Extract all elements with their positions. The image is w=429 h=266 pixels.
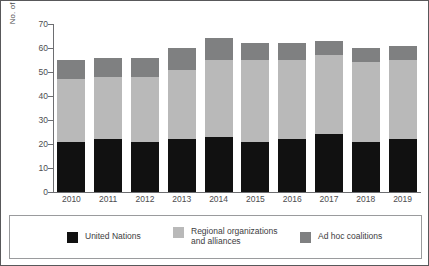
legend-item-label: Ad hoc coalitions bbox=[318, 231, 382, 241]
legend-item[interactable]: United Nations bbox=[67, 231, 141, 243]
bar-segment[interactable] bbox=[352, 142, 380, 192]
bar-segment[interactable] bbox=[315, 134, 343, 192]
bar-segment[interactable] bbox=[131, 142, 159, 192]
bar-segment[interactable] bbox=[57, 79, 85, 141]
bar-segment[interactable] bbox=[205, 38, 233, 60]
bar-segment[interactable] bbox=[94, 139, 122, 192]
chart-legend: United NationsRegional organizations and… bbox=[9, 216, 422, 259]
bar-segment[interactable] bbox=[131, 77, 159, 142]
bar-segment[interactable] bbox=[241, 60, 269, 142]
bar-segment[interactable] bbox=[389, 60, 417, 139]
bar-segment[interactable] bbox=[168, 139, 196, 192]
bar-segment[interactable] bbox=[315, 55, 343, 134]
bar-column[interactable] bbox=[94, 58, 122, 192]
x-axis-tick-label: 2016 bbox=[272, 194, 312, 204]
x-axis-line bbox=[53, 192, 421, 193]
y-axis-tick-label: 50 bbox=[8, 67, 48, 77]
bar-column[interactable] bbox=[352, 48, 380, 192]
bar-segment[interactable] bbox=[352, 62, 380, 141]
legend-item[interactable]: Ad hoc coalitions bbox=[300, 231, 382, 243]
bar-segment[interactable] bbox=[57, 142, 85, 192]
bar-segment[interactable] bbox=[389, 46, 417, 60]
x-axis-tick-label: 2018 bbox=[346, 194, 386, 204]
bar-column[interactable] bbox=[241, 43, 269, 192]
x-axis-tick-label: 2014 bbox=[199, 194, 239, 204]
y-axis-tick-label: 60 bbox=[8, 43, 48, 53]
legend-item[interactable]: Regional organizations and alliances bbox=[173, 226, 277, 246]
bar-segment[interactable] bbox=[168, 70, 196, 140]
bar-column[interactable] bbox=[278, 43, 306, 192]
bar-segment[interactable] bbox=[278, 60, 306, 139]
x-axis-tick-label: 2011 bbox=[88, 194, 128, 204]
x-axis-tick-label: 2017 bbox=[309, 194, 349, 204]
y-axis-tick-label: 40 bbox=[8, 91, 48, 101]
bar-segment[interactable] bbox=[168, 48, 196, 70]
legend-swatch-icon bbox=[67, 232, 78, 243]
legend-swatch-icon bbox=[300, 232, 311, 243]
bar-segment[interactable] bbox=[352, 48, 380, 62]
x-axis-tick-label: 2015 bbox=[235, 194, 275, 204]
bar-segment[interactable] bbox=[278, 139, 306, 192]
x-axis-tick-label: 2012 bbox=[125, 194, 165, 204]
bar-segment[interactable] bbox=[278, 43, 306, 60]
y-axis-tick-label: 10 bbox=[8, 163, 48, 173]
bar-segment[interactable] bbox=[205, 137, 233, 192]
plot-area: No. of operations 010203040506070 201020… bbox=[2, 2, 427, 208]
bar-segment[interactable] bbox=[94, 77, 122, 139]
bar-column[interactable] bbox=[205, 38, 233, 192]
y-axis-tick-label: 20 bbox=[8, 139, 48, 149]
bar-segment[interactable] bbox=[241, 142, 269, 192]
bar-column[interactable] bbox=[315, 41, 343, 192]
x-axis-tick-label: 2010 bbox=[51, 194, 91, 204]
bar-segment[interactable] bbox=[94, 58, 122, 77]
legend-item-label: United Nations bbox=[85, 231, 141, 241]
x-axis-tick-label: 2019 bbox=[383, 194, 423, 204]
bar-column[interactable] bbox=[168, 48, 196, 192]
bar-segment[interactable] bbox=[57, 60, 85, 79]
x-axis-tick-label: 2013 bbox=[162, 194, 202, 204]
legend-swatch-icon bbox=[173, 227, 184, 238]
legend-item-label: Regional organizations and alliances bbox=[191, 226, 277, 246]
chart-figure: No. of operations 010203040506070 201020… bbox=[0, 0, 429, 266]
bar-segment[interactable] bbox=[315, 41, 343, 55]
bar-segment[interactable] bbox=[389, 139, 417, 192]
bar-segment[interactable] bbox=[205, 60, 233, 137]
bar-segment[interactable] bbox=[241, 43, 269, 60]
y-axis-tick-label: 0 bbox=[8, 187, 48, 197]
bar-column[interactable] bbox=[57, 60, 85, 192]
bar-column[interactable] bbox=[389, 46, 417, 192]
bar-segment[interactable] bbox=[131, 58, 159, 77]
y-axis-tick-label: 70 bbox=[8, 19, 48, 29]
bar-series-group bbox=[53, 24, 421, 192]
bar-column[interactable] bbox=[131, 58, 159, 192]
y-axis-tick-label: 30 bbox=[8, 115, 48, 125]
